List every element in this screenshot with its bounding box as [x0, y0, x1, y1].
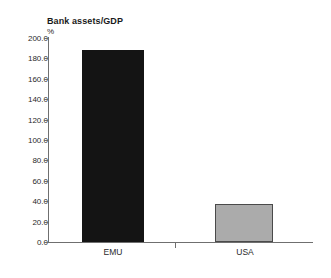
x-axis-label-usa: USA — [215, 247, 275, 257]
y-axis-tick-label: 100.0 — [6, 136, 48, 145]
y-axis-tick-label: 160.0 — [6, 75, 48, 84]
y-axis-tick-label: 140.0 — [6, 95, 48, 104]
y-axis-tick-mark — [44, 140, 49, 141]
y-axis-tick-label: 80.0 — [6, 156, 48, 165]
x-axis-mid-tick — [175, 243, 176, 248]
y-axis-tick-label: 180.0 — [6, 54, 48, 63]
y-axis-tick-mark — [44, 38, 49, 39]
y-axis-tick-mark — [44, 222, 49, 223]
y-axis-tick-label: 60.0 — [6, 177, 48, 186]
y-axis-tick-mark — [44, 201, 49, 202]
y-axis-tick-label: 0.0 — [6, 238, 48, 247]
y-axis-unit-label: % — [47, 27, 54, 36]
y-axis-tick-mark — [44, 58, 49, 59]
y-axis-tick-label: 20.0 — [6, 218, 48, 227]
y-axis-tick-mark — [44, 120, 49, 121]
x-axis-line — [48, 242, 313, 243]
bar-emu[interactable] — [82, 50, 144, 242]
y-axis-tick-mark — [44, 99, 49, 100]
plot-area — [48, 38, 313, 242]
bar-usa[interactable] — [215, 204, 273, 242]
y-axis-tick-mark — [44, 242, 49, 243]
y-axis-tick-mark — [44, 181, 49, 182]
y-axis-tick-mark — [44, 160, 49, 161]
y-axis-tick-label: 120.0 — [6, 116, 48, 125]
y-axis-tick-mark — [44, 79, 49, 80]
x-axis-label-emu: EMU — [83, 247, 143, 257]
chart-title: Bank assets/GDP — [47, 16, 123, 26]
y-axis-tick-label: 200.0 — [6, 34, 48, 43]
bank-assets-gdp-bar-chart: Bank assets/GDP % 200.0180.0160.0140.012… — [0, 0, 331, 278]
y-axis-tick-label: 40.0 — [6, 197, 48, 206]
